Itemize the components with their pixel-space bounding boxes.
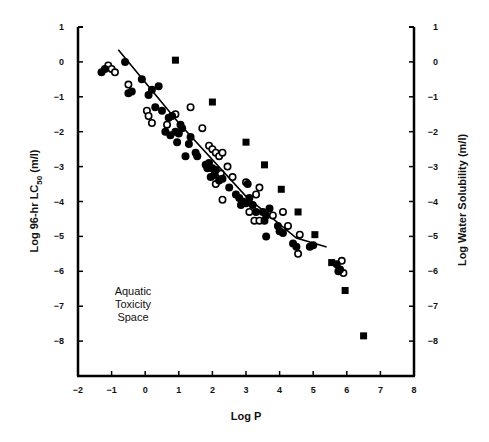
- x-tick-label: 1: [176, 385, 181, 395]
- filled-circle-point: [178, 124, 186, 132]
- open-circle-point: [229, 174, 235, 180]
- x-tick-label: 2: [210, 385, 215, 395]
- y-axis-label-suffix: (m/l): [28, 149, 40, 176]
- y-tick-label: −3: [54, 162, 64, 172]
- y-axis-label: Log 96-hr LC50 (m/l): [28, 149, 44, 252]
- square-point: [311, 231, 318, 238]
- filled-circle-point: [185, 140, 193, 148]
- y-tick-label: −4: [54, 197, 64, 207]
- annotation-line-3: Space: [117, 311, 148, 323]
- y-tick-label: −1: [54, 92, 64, 102]
- filled-circle-point: [244, 180, 252, 188]
- filled-circle-point: [182, 152, 190, 160]
- filled-circle-point: [207, 173, 215, 181]
- y2-tick-label: −4: [428, 197, 438, 207]
- open-circle-point: [295, 251, 301, 257]
- y-tick-label: −5: [54, 231, 64, 241]
- open-circle-point: [164, 122, 170, 128]
- x-tick-label: 3: [243, 385, 248, 395]
- open-circle-point: [187, 104, 193, 110]
- y-tick-label: −7: [54, 301, 64, 311]
- y2-tick-label: −2: [428, 127, 438, 137]
- square-point: [261, 161, 268, 168]
- aquatic-toxicity-annotation: Aquatic Toxicity Space: [115, 285, 152, 323]
- filled-circle-point: [292, 243, 300, 251]
- filled-circle-point: [173, 138, 181, 146]
- y2-tick-label: −1: [428, 92, 438, 102]
- open-circle-point: [297, 231, 303, 237]
- x-tick-label: 7: [378, 385, 383, 395]
- filled-circle-point: [262, 232, 270, 240]
- open-circle-point: [246, 209, 252, 215]
- scatter-chart: 10−1−2−3−4−5−6−7−8 10−1−2−3−4−5−6−7−8 −2…: [0, 0, 489, 442]
- filled-circle-point: [101, 65, 109, 73]
- open-circle-point: [224, 163, 230, 169]
- square-point: [295, 208, 302, 215]
- square-point: [342, 287, 349, 294]
- open-circle-point: [219, 197, 225, 203]
- y2-tick-label: −5: [428, 231, 438, 241]
- filled-circle-point: [218, 175, 226, 183]
- x-tick-label: −1: [106, 385, 116, 395]
- open-circle-point: [145, 113, 151, 119]
- x-tick-label: 6: [344, 385, 349, 395]
- open-circle-point: [280, 209, 286, 215]
- square-point: [328, 259, 335, 266]
- open-circle-point: [256, 184, 262, 190]
- square-point: [172, 57, 179, 64]
- square-point: [243, 139, 250, 146]
- filled-circle-point: [158, 107, 166, 115]
- filled-circle-point: [155, 82, 163, 90]
- regression-line: [118, 50, 326, 247]
- filled-circle-point: [260, 217, 268, 225]
- square-point: [209, 99, 216, 106]
- filled-circle-point: [279, 229, 287, 237]
- filled-circle-point: [245, 194, 253, 202]
- x-tick-label: 8: [411, 385, 416, 395]
- filled-circle-point: [266, 204, 274, 212]
- square-point: [278, 186, 285, 193]
- annotation-line-2: Toxicity: [115, 298, 152, 310]
- open-circle-point: [199, 125, 205, 131]
- y2-tick-label: −8: [428, 336, 438, 346]
- y-axis-label-main: Log 96-hr LC: [28, 185, 40, 253]
- filled-circle-point: [128, 88, 136, 96]
- filled-circle-point: [121, 58, 129, 66]
- y2-tick-label: 1: [433, 22, 438, 32]
- open-circle-point: [253, 191, 259, 197]
- square-point: [360, 332, 367, 339]
- filled-circle-point: [168, 112, 176, 120]
- open-circle-point: [125, 81, 131, 87]
- open-circle-point: [270, 212, 276, 218]
- filled-circle-point: [138, 75, 146, 83]
- y-tick-label: 0: [59, 57, 64, 67]
- filled-circle-point: [193, 152, 201, 160]
- y-tick-label: −8: [54, 336, 64, 346]
- filled-circle-point: [336, 266, 344, 274]
- y2-tick-label: −6: [428, 266, 438, 276]
- y2-tick-label: −7: [428, 301, 438, 311]
- y-tick-label: −2: [54, 127, 64, 137]
- filled-circle-point: [249, 201, 257, 209]
- x-tick-label: 5: [311, 385, 316, 395]
- filled-circle-point: [225, 184, 233, 192]
- x-axis-ticks: −2−1012345678: [73, 371, 417, 395]
- open-circle-point: [219, 149, 225, 155]
- filled-circle-point: [237, 201, 245, 209]
- open-circle-point: [285, 223, 291, 229]
- filled-circle-point: [309, 241, 317, 249]
- square-points: [172, 57, 367, 340]
- open-circle-point: [112, 69, 118, 75]
- x-axis-label: Log P: [231, 410, 262, 422]
- y-tick-label: 1: [59, 22, 64, 32]
- annotation-line-1: Aquatic: [115, 285, 152, 297]
- filled-circle-point: [187, 133, 195, 141]
- filled-circle-points: [98, 58, 345, 275]
- open-circle-point: [149, 120, 155, 126]
- x-tick-label: −2: [73, 385, 83, 395]
- x-tick-label: 4: [277, 385, 282, 395]
- y2-tick-label: 0: [433, 57, 438, 67]
- y-tick-label: −6: [54, 266, 64, 276]
- y2-tick-label: −3: [428, 162, 438, 172]
- y2-axis-label: Log Water Solubility (m/l): [456, 134, 468, 267]
